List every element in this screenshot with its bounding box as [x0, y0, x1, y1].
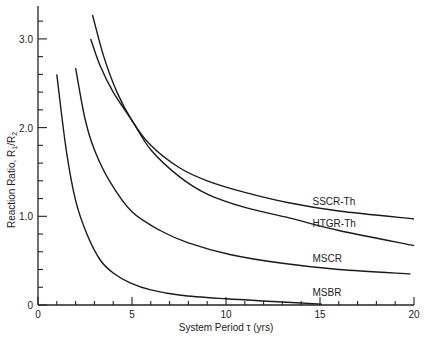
x-tick-label: 15 — [314, 309, 326, 320]
curve-mscr — [76, 68, 411, 274]
y-axis-title: Reaction Ratio, R1/R2 — [6, 132, 18, 228]
curve-sscr-th — [93, 15, 414, 219]
y-tick-label: 2.0 — [19, 123, 33, 134]
curves — [57, 15, 414, 304]
x-tick-label: 10 — [220, 309, 232, 320]
y-tick-label: 3.0 — [19, 34, 33, 45]
label-htgr-th: HTGR-Th — [312, 218, 355, 229]
axes: 0510152001.02.03.0 — [19, 6, 420, 320]
curve-labels: SSCR-ThHTGR-ThMSCRMSBR — [312, 196, 355, 298]
y-tick-label: 1.0 — [19, 211, 33, 222]
x-tick-label: 0 — [35, 309, 41, 320]
x-axis-title: System Period τ (yrs) — [179, 322, 274, 333]
x-tick-label: 5 — [129, 309, 135, 320]
label-sscr-th: SSCR-Th — [312, 196, 355, 207]
reaction-ratio-chart: 0510152001.02.03.0 SSCR-ThHTGR-ThMSCRMSB… — [0, 0, 428, 340]
label-msbr: MSBR — [312, 287, 341, 298]
curve-msbr — [57, 74, 322, 304]
y-tick-label: 0 — [27, 300, 33, 311]
x-tick-label: 20 — [408, 309, 420, 320]
label-mscr: MSCR — [312, 253, 341, 264]
